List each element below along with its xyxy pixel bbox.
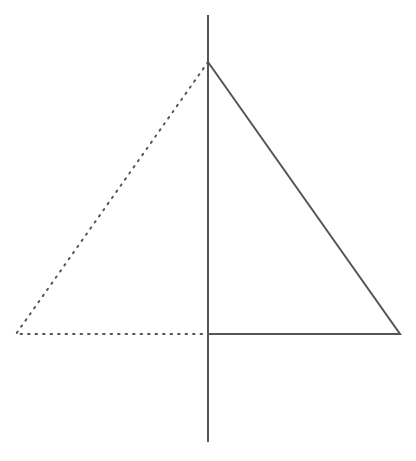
solid-triangle <box>208 62 400 334</box>
dotted-reflected-triangle <box>16 62 208 334</box>
diagram-canvas <box>0 0 416 461</box>
